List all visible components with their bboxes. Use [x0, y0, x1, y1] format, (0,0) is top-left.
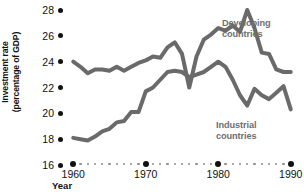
x-axis-minor-tick-dot [137, 163, 139, 165]
x-axis-minor-tick-dot [224, 163, 226, 165]
x-axis-minor-tick-dot [195, 163, 197, 165]
x-axis-minor-tick-dot [253, 163, 255, 165]
investment-rate-line-chart: Investment rate (percentage of GDP) 2826… [0, 0, 304, 192]
x-axis-tick-label-1990: 1990 [271, 168, 304, 180]
x-axis-minor-tick-dot [79, 163, 81, 165]
x-axis-tick-dot-1990 [288, 161, 294, 167]
x-axis-tick-label-1980: 1980 [198, 168, 238, 180]
x-axis-tick-dot-1970 [143, 161, 149, 167]
x-axis-tick-label-1970: 1970 [126, 168, 166, 180]
x-axis-minor-tick-dot [108, 163, 110, 165]
x-axis-minor-tick-dot [282, 163, 284, 165]
series-line-industrial-countries [73, 62, 291, 141]
x-axis-tick-label-1960: 1960 [53, 168, 93, 180]
series-label-industrial-countries: Industrial countries [216, 120, 256, 142]
series-label-developing-countries: Developing countries [222, 18, 271, 40]
x-axis-minor-tick-dot [166, 163, 168, 165]
x-axis-title: Year [52, 180, 72, 191]
